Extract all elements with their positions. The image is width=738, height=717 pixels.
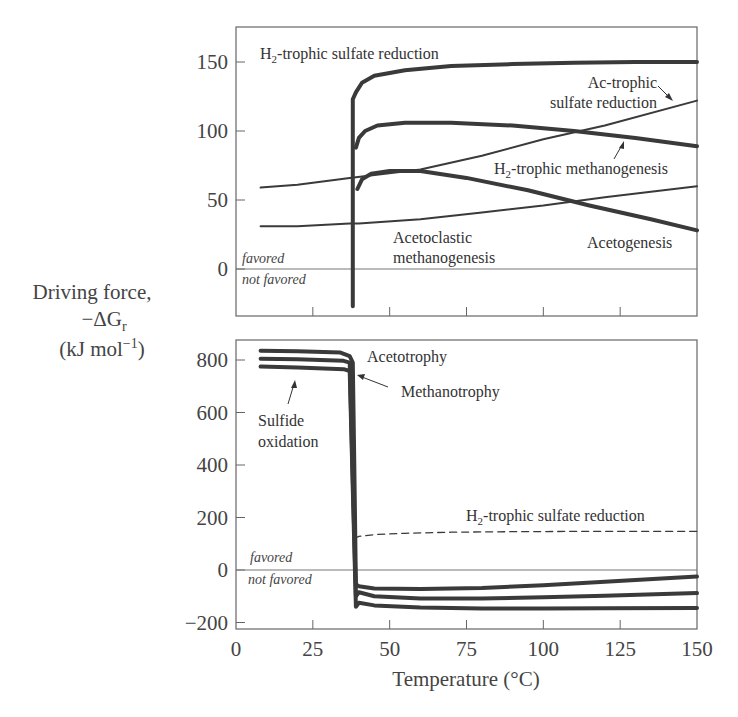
figure-chart: 050100150 favored not favored H2-trophic…: [0, 0, 738, 717]
top-not-favored-label: not favored: [242, 272, 307, 287]
x-tick-label: 150: [681, 637, 713, 661]
x-tick-label: 100: [528, 637, 560, 661]
ann-acetotrophy: Acetotrophy: [367, 348, 447, 366]
y-tick-label: 200: [197, 506, 229, 530]
ann-oxidation: oxidation: [258, 433, 318, 450]
y-tick-label: −200: [185, 611, 228, 635]
y-tick-label: 0: [218, 558, 229, 582]
bottom-favored-label: favored: [250, 550, 293, 565]
ann-h2-methanogenesis: H2-trophic methanogenesis: [494, 160, 668, 180]
x-tick-label: 50: [379, 637, 400, 661]
ann-ac-trophic: Ac-trophic: [588, 74, 657, 92]
svg-text:Driving force,: Driving force,: [33, 280, 152, 304]
top-x-ticks: [313, 307, 620, 316]
svg-text:−ΔGr: −ΔGr: [81, 307, 127, 334]
y-tick-label: 400: [197, 453, 229, 477]
arrowhead-sulfide-oxidation: [291, 380, 297, 388]
y-axis-title: Driving force, −ΔGr (kJ mol−1): [33, 280, 152, 361]
y-tick-label: 50: [207, 188, 228, 212]
series-line-acetogenesis: [261, 186, 697, 226]
top-y-ticks: 050100150: [197, 50, 246, 281]
bottom-x-ticks: 0255075100125150: [231, 620, 713, 661]
arrowhead-methanotrophy: [357, 374, 365, 380]
y-tick-label: 0: [218, 257, 229, 281]
ann-methanogenesis: methanogenesis: [393, 249, 495, 267]
series-line-sulfide-oxidation: [261, 367, 697, 609]
bottom-not-favored-label: not favored: [248, 572, 313, 587]
ann-methanotrophy: Methanotrophy: [401, 383, 500, 401]
top-panel: 050100150 favored not favored H2-trophic…: [197, 27, 698, 316]
ann-acetoclastic: Acetoclastic: [393, 229, 472, 246]
top-favored-label: favored: [242, 251, 285, 266]
ann-h2-sulfate-reduction: H2-trophic sulfate reduction: [260, 45, 439, 65]
ann-acetogenesis: Acetogenesis: [587, 234, 672, 252]
y-tick-label: 100: [197, 119, 229, 143]
y-tick-label: 600: [197, 401, 229, 425]
bottom-panel: −2000200400600800 0255075100125150 favor…: [185, 340, 713, 661]
y-tick-label: 800: [197, 348, 229, 372]
x-tick-label: 0: [231, 637, 242, 661]
x-tick-label: 125: [604, 637, 636, 661]
y-tick-label: 150: [197, 50, 229, 74]
ann-sulfide: Sulfide: [258, 412, 304, 429]
ann-ac-sulfate-reduction: sulfate reduction: [550, 94, 657, 111]
ann-bottom-h2-sulfate-reduction: H2-trophic sulfate reduction: [466, 507, 645, 527]
x-axis-title: Temperature (°C): [392, 667, 539, 691]
series-line-acetoclastic-methanogenesis: [357, 171, 697, 230]
arrowhead-h2-methanogenesis: [619, 141, 624, 149]
x-tick-label: 75: [456, 637, 477, 661]
svg-text:(kJ mol−1): (kJ mol−1): [59, 336, 145, 361]
arrow-methanotrophy: [362, 377, 388, 387]
x-tick-label: 25: [302, 637, 323, 661]
series-line-h2-trophic-sulfate-reduction: [354, 531, 697, 538]
